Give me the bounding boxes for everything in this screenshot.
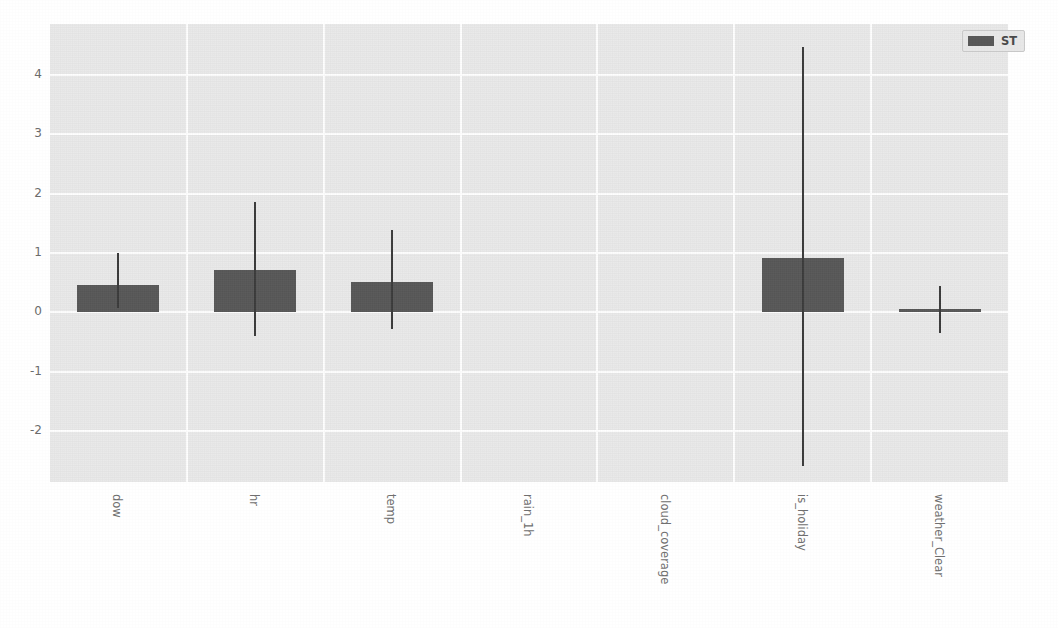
legend-swatch-ST <box>968 36 994 46</box>
gridline-horizontal <box>50 371 1008 373</box>
y-tick-0: 0 <box>8 304 42 318</box>
error-bar-temp <box>391 230 393 329</box>
error-bar-dow <box>117 253 119 308</box>
gridline-vertical <box>596 24 598 482</box>
x-tick-rain_1h: rain_1h <box>521 494 535 537</box>
gridline-vertical <box>186 24 188 482</box>
gridline-vertical <box>733 24 735 482</box>
x-tick-hr: hr <box>247 494 261 506</box>
gridline-vertical <box>323 24 325 482</box>
x-tick-cloud_coverage: cloud_coverage <box>658 494 672 584</box>
gridline-vertical <box>460 24 462 482</box>
gridline-horizontal <box>50 74 1008 76</box>
chart-figure: 43210-1-2 dowhrtemprain_1hcloud_coverage… <box>0 0 1058 628</box>
legend-label-ST: ST <box>1001 34 1017 48</box>
error-bar-weather_Clear <box>939 286 941 332</box>
gridline-horizontal <box>50 430 1008 432</box>
y-tick-3: 3 <box>8 126 42 140</box>
y-tick--1: -1 <box>8 364 42 378</box>
gridline-horizontal <box>50 252 1008 254</box>
gridline-horizontal <box>50 311 1008 313</box>
legend[interactable]: ST <box>962 30 1025 52</box>
gridline-vertical <box>870 24 872 482</box>
y-tick--2: -2 <box>8 423 42 437</box>
plot-area <box>50 24 1008 482</box>
error-bar-is_holiday <box>802 47 804 466</box>
x-tick-weather_Clear: weather_Clear <box>932 494 946 577</box>
gridline-horizontal <box>50 193 1008 195</box>
y-tick-4: 4 <box>8 67 42 81</box>
gridline-horizontal <box>50 133 1008 135</box>
error-bar-hr <box>254 202 256 335</box>
x-tick-temp: temp <box>384 494 398 524</box>
y-tick-1: 1 <box>8 245 42 259</box>
title-fragment <box>150 0 350 1</box>
x-tick-is_holiday: is_holiday <box>795 494 809 551</box>
x-tick-dow: dow <box>110 494 124 518</box>
y-tick-2: 2 <box>8 186 42 200</box>
